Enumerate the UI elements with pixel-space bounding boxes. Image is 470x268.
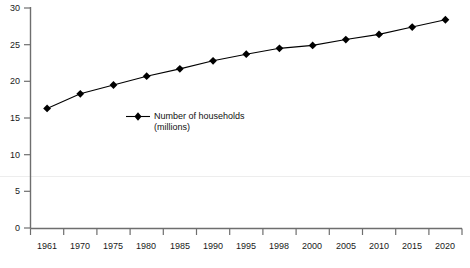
household-line-chart: 30 25 20 15 10 5 0 1961 1970 1975 1980 1… xyxy=(0,0,470,268)
series-markers-households xyxy=(43,16,449,113)
y-axis-ticks xyxy=(24,8,31,228)
y-tick-label-20: 20 xyxy=(0,76,20,86)
legend-marker-icon xyxy=(126,110,150,123)
y-tick-label-30: 30 xyxy=(0,3,20,13)
x-tick-label-1961: 1961 xyxy=(29,241,65,251)
x-tick-label-1998: 1998 xyxy=(261,241,297,251)
y-tick-label-15: 15 xyxy=(0,113,20,123)
data-point-1995 xyxy=(242,50,250,58)
x-tick-label-1985: 1985 xyxy=(162,241,198,251)
data-point-2020 xyxy=(442,16,450,24)
y-tick-label-10: 10 xyxy=(0,150,20,160)
x-axis-ticks xyxy=(31,229,463,236)
x-tick-label-2000: 2000 xyxy=(294,241,330,251)
x-tick-label-1990: 1990 xyxy=(195,241,231,251)
data-point-2010 xyxy=(375,31,383,39)
series-line-households xyxy=(47,20,445,109)
chart-legend: Number of households (millions) xyxy=(126,110,245,133)
y-tick-label-25: 25 xyxy=(0,40,20,50)
data-point-1980 xyxy=(143,72,151,80)
data-point-2005 xyxy=(342,36,350,44)
x-tick-label-2020: 2020 xyxy=(427,241,463,251)
legend-label-households: Number of households (millions) xyxy=(154,110,245,133)
data-point-1970 xyxy=(76,90,84,98)
chart-plot-area xyxy=(0,0,470,268)
data-point-1961 xyxy=(43,105,51,113)
x-tick-label-2005: 2005 xyxy=(328,241,364,251)
y-tick-label-0: 0 xyxy=(0,223,20,233)
x-tick-label-2010: 2010 xyxy=(361,241,397,251)
x-tick-label-1995: 1995 xyxy=(228,241,264,251)
data-point-1985 xyxy=(176,65,184,73)
x-tick-label-2015: 2015 xyxy=(394,241,430,251)
data-point-1975 xyxy=(110,81,118,89)
data-point-1998 xyxy=(276,44,284,52)
x-tick-label-1970: 1970 xyxy=(62,241,98,251)
x-tick-label-1980: 1980 xyxy=(128,241,164,251)
x-tick-label-1975: 1975 xyxy=(95,241,131,251)
data-point-2000 xyxy=(309,42,317,50)
data-point-2015 xyxy=(408,23,416,31)
y-tick-label-5: 5 xyxy=(0,186,20,196)
data-point-1990 xyxy=(209,57,217,65)
